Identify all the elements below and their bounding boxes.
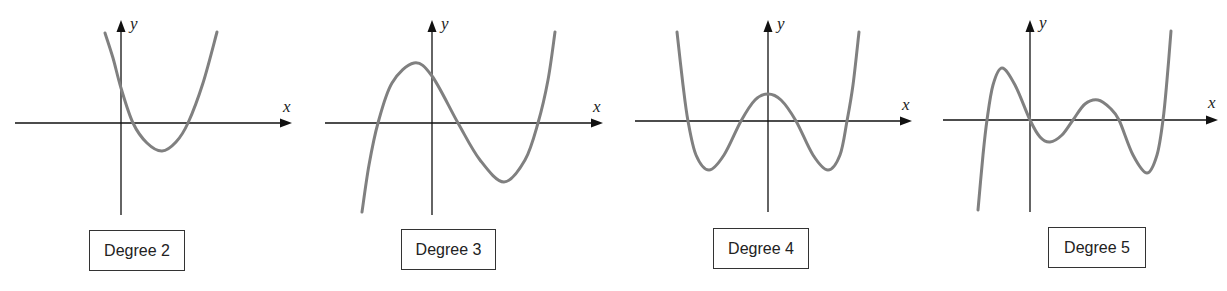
graph-degree-2: xy [15, 14, 292, 215]
graph-degree-3: xy [325, 14, 603, 215]
x-axis-arrow-icon [1206, 116, 1218, 125]
y-axis-arrow-icon [764, 20, 773, 32]
y-axis-arrow-icon [117, 20, 126, 32]
y-axis-arrow-icon [428, 20, 437, 32]
x-axis-arrow-icon [280, 119, 292, 128]
x-axis-label: x [1207, 93, 1216, 112]
graph-degree-5: xy [943, 13, 1218, 212]
x-axis-label: x [901, 95, 910, 114]
degree-3-label: Degree 3 [401, 229, 496, 270]
polynomial-curve [105, 32, 217, 151]
y-axis-label: y [1037, 13, 1047, 32]
x-axis-arrow-icon [591, 119, 603, 128]
graph-degree-4: xy [635, 14, 912, 212]
degree-2-label: Degree 2 [89, 230, 185, 271]
y-axis-arrow-icon [1026, 20, 1035, 32]
x-axis-arrow-icon [900, 117, 912, 126]
x-axis-label: x [592, 97, 601, 116]
x-axis-label: x [282, 97, 291, 116]
polynomial-curve [362, 32, 555, 212]
degree-5-label: Degree 5 [1048, 227, 1146, 268]
y-axis-label: y [128, 14, 138, 33]
y-axis-label: y [439, 14, 449, 33]
degree-4-label: Degree 4 [713, 228, 809, 269]
y-axis-label: y [775, 14, 785, 33]
